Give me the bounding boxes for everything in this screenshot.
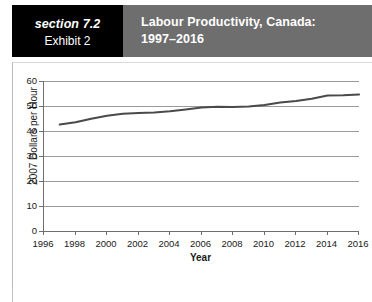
x-tick-2000	[106, 231, 107, 235]
exhibit-label: Exhibit 2	[44, 33, 90, 49]
y-tick-label-20: 20	[13, 176, 37, 186]
x-tick-2008	[232, 231, 233, 235]
plot-area	[43, 81, 359, 232]
x-tick-2006	[201, 231, 202, 235]
title-block: Labour Productivity, Canada:1997–2016	[123, 5, 372, 57]
x-tick-1998	[75, 231, 76, 235]
exhibit-header: section 7.2 Exhibit 2 Labour Productivit…	[12, 5, 372, 57]
chart-title-line-2: 1997–2016	[141, 31, 372, 48]
y-tick-label-0: 0	[13, 226, 37, 236]
x-tick-1996	[43, 231, 44, 235]
x-tick-label-2016: 2016	[338, 238, 372, 249]
y-tick-label-10: 10	[13, 201, 37, 211]
x-tick-2016	[358, 231, 359, 235]
series-line-labour-productivity	[60, 95, 359, 125]
x-tick-2010	[264, 231, 265, 235]
x-tick-2012	[295, 231, 296, 235]
line-series-svg	[44, 81, 359, 231]
y-tick-label-50: 50	[13, 101, 37, 111]
x-tick-2002	[138, 231, 139, 235]
y-tick-label-40: 40	[13, 126, 37, 136]
page-left-rule	[12, 288, 13, 302]
y-tick-label-60: 60	[13, 76, 37, 86]
x-axis-title: Year	[43, 252, 358, 264]
y-tick-label-30: 30	[13, 151, 37, 161]
section-label: section 7.2	[35, 16, 101, 32]
x-tick-2004	[169, 231, 170, 235]
chart-title-line-1: Labour Productivity, Canada:	[141, 14, 372, 31]
bottom-caption	[22, 294, 362, 302]
x-tick-2014	[327, 231, 328, 235]
